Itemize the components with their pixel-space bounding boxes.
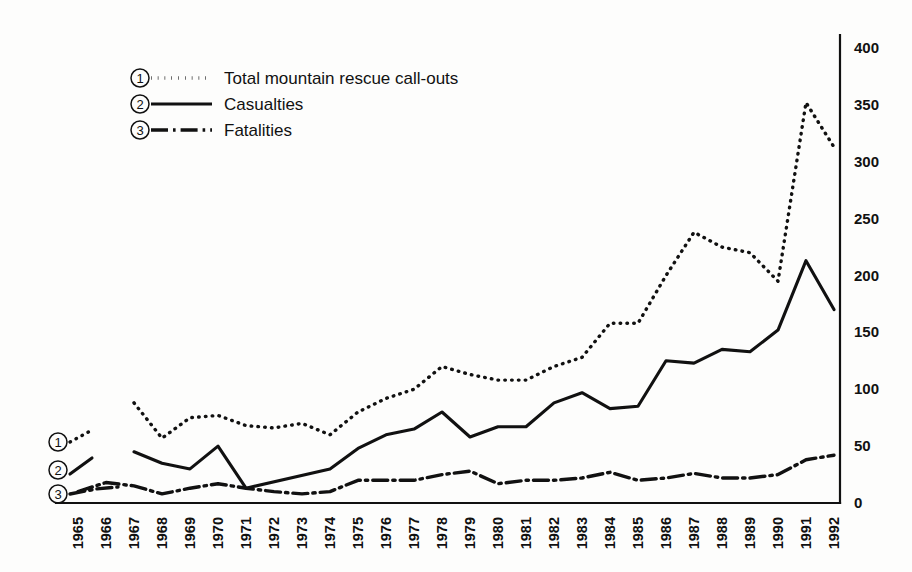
x-tick-label: 1978 xyxy=(434,517,450,549)
legend-item: 2Casualties xyxy=(131,95,303,114)
x-tick-label: 1973 xyxy=(294,517,310,549)
x-tick-label: 1971 xyxy=(238,517,254,549)
x-tick-label: 1992 xyxy=(826,517,842,549)
y-tick-label: 350 xyxy=(854,96,879,113)
x-tick-label: 1988 xyxy=(714,517,730,549)
series-line-casualties xyxy=(134,261,834,489)
x-tick-label: 1979 xyxy=(462,517,478,549)
x-tick-label: 1974 xyxy=(322,517,338,549)
x-tick-label: 1968 xyxy=(154,517,170,549)
x-tick-label: 1969 xyxy=(182,517,198,549)
y-tick-label: 100 xyxy=(854,380,879,397)
x-tick-label: 1990 xyxy=(770,517,786,549)
series-line-fatalities xyxy=(78,455,834,494)
y-tick-label: 0 xyxy=(854,494,862,511)
x-tick-label: 1972 xyxy=(266,517,282,549)
x-tick-label: 1987 xyxy=(686,517,702,549)
legend-circled-number-text: 2 xyxy=(136,97,143,112)
legend-label: Total mountain rescue call-outs xyxy=(224,69,458,88)
line-chart: 0501001502002503003504001965196619671968… xyxy=(0,0,912,572)
series-leader-stub xyxy=(70,458,92,474)
inline-series-marker-casualties: 2 xyxy=(49,458,92,479)
legend-circled-number-text: 3 xyxy=(136,123,143,138)
y-tick-label: 400 xyxy=(854,39,879,56)
inline-series-marker-fatalities: 3 xyxy=(49,485,118,503)
legend-item: 1Total mountain rescue call-outs xyxy=(131,69,458,88)
x-tick-label: 1970 xyxy=(210,517,226,549)
x-tick-label: 1965 xyxy=(70,517,86,549)
inline-series-marker-callouts: 1 xyxy=(49,430,92,451)
x-tick-label: 1986 xyxy=(658,517,674,549)
series-line-callouts xyxy=(134,103,834,439)
legend-label: Casualties xyxy=(224,95,303,114)
y-tick-label: 250 xyxy=(854,210,879,227)
y-tick-label: 150 xyxy=(854,323,879,340)
x-tick-label: 1967 xyxy=(126,517,142,549)
x-tick-label: 1984 xyxy=(602,517,618,549)
circled-number-text: 1 xyxy=(54,435,61,450)
legend-circled-number-text: 1 xyxy=(136,71,143,86)
legend-item: 3Fatalities xyxy=(131,121,292,140)
x-tick-label: 1983 xyxy=(574,517,590,549)
y-tick-label: 300 xyxy=(854,153,879,170)
y-tick-label: 50 xyxy=(854,437,871,454)
x-tick-label: 1976 xyxy=(378,517,394,549)
x-tick-label: 1966 xyxy=(98,517,114,549)
x-tick-label: 1989 xyxy=(742,517,758,549)
x-tick-label: 1977 xyxy=(406,517,422,549)
circled-number-text: 3 xyxy=(54,487,61,502)
circled-number-text: 2 xyxy=(54,463,61,478)
x-tick-label: 1982 xyxy=(546,517,562,549)
x-tick-label: 1975 xyxy=(350,517,366,549)
x-tick-label: 1991 xyxy=(798,517,814,549)
x-tick-label: 1980 xyxy=(490,517,506,549)
legend-label: Fatalities xyxy=(224,121,292,140)
series-leader-stub xyxy=(70,430,92,442)
x-tick-label: 1981 xyxy=(518,517,534,549)
x-tick-label: 1985 xyxy=(630,517,646,549)
chart-figure: 0501001502002503003504001965196619671968… xyxy=(0,0,912,572)
y-tick-label: 200 xyxy=(854,267,879,284)
